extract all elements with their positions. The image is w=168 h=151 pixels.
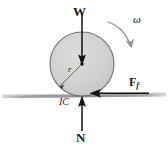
angular-velocity-label: ω	[133, 14, 141, 25]
normal-force-vector	[78, 96, 86, 132]
instant-center-label: IC	[59, 97, 69, 107]
friction-force-subscript: f	[136, 81, 139, 90]
figure-canvas	[0, 0, 168, 151]
normal-force-label: N	[76, 131, 85, 144]
physics-figure: W ω Ff IC r N	[0, 0, 168, 151]
radius-label: r	[68, 65, 72, 74]
angular-velocity-arc	[108, 22, 134, 48]
weight-label: W	[73, 5, 86, 18]
friction-force-label: Ff	[129, 76, 139, 90]
